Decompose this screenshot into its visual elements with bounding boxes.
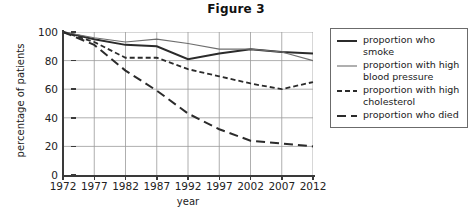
x-tick-mark	[219, 176, 221, 180]
x-tick-label: 1977	[81, 180, 108, 192]
legend-label: proportion with high cholesterol	[363, 84, 463, 107]
x-tick-mark	[62, 176, 64, 180]
x-tick-mark	[281, 176, 283, 180]
x-tick-label: 2012	[300, 180, 327, 192]
chart-title: Figure 3	[0, 2, 472, 16]
legend-swatch-solid	[336, 35, 358, 47]
x-tick-mark	[187, 176, 189, 180]
legend-item: proportion with high cholesterol	[336, 84, 463, 107]
chart-legend: proportion who smokeproportion with high…	[330, 28, 468, 128]
x-tick-label: 1992	[175, 180, 202, 192]
y-tick-label: 100	[20, 26, 58, 38]
y-tick-mark	[71, 174, 76, 176]
x-tick-label: 1982	[112, 180, 139, 192]
y-tick-label: 20	[20, 140, 58, 152]
x-tick-label: 1987	[143, 180, 170, 192]
legend-swatch-solid	[336, 60, 358, 72]
y-axis-line	[62, 30, 64, 177]
legend-label: proportion who died	[363, 109, 459, 121]
legend-swatch-dashed-long	[336, 110, 358, 122]
legend-item: proportion who died	[336, 109, 463, 122]
plot-area	[63, 32, 313, 175]
y-tick-label: 40	[20, 112, 58, 124]
legend-item: proportion who smoke	[336, 34, 463, 57]
x-tick-mark	[312, 176, 314, 180]
x-tick-mark	[250, 176, 252, 180]
y-tick-mark	[71, 88, 76, 90]
x-tick-label: 1997	[206, 180, 233, 192]
x-tick-label: 1972	[50, 180, 77, 192]
series-line	[63, 32, 313, 146]
x-tick-label: 2007	[268, 180, 295, 192]
legend-label: proportion with high blood pressure	[363, 59, 463, 82]
x-tick-label: 2002	[237, 180, 264, 192]
series-lines	[63, 32, 313, 175]
y-tick-label: 60	[20, 83, 58, 95]
x-tick-mark	[156, 176, 158, 180]
y-tick-mark	[71, 117, 76, 119]
legend-item: proportion with high blood pressure	[336, 59, 463, 82]
y-tick-mark	[71, 60, 76, 62]
y-tick-label: 80	[20, 55, 58, 67]
legend-label: proportion who smoke	[363, 34, 463, 57]
series-line	[63, 32, 313, 61]
x-tick-mark	[125, 176, 127, 180]
y-tick-mark	[71, 31, 76, 33]
legend-swatch-dashed-short	[336, 85, 358, 97]
y-tick-mark	[71, 146, 76, 148]
x-axis-title: year	[63, 196, 313, 207]
x-tick-mark	[94, 176, 96, 180]
figure-3-chart: Figure 3 percentage of patients 02040608…	[0, 0, 472, 218]
